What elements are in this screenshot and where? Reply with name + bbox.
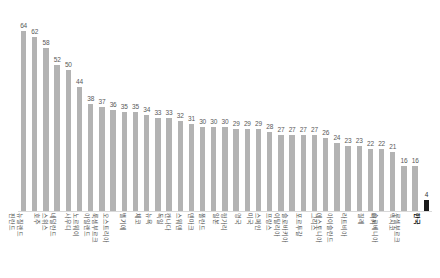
category-label-text: 루셀부르크: [394, 213, 400, 243]
bar-slot[interactable]: 62: [29, 4, 40, 211]
category-label-text: 헝가리: [221, 213, 227, 231]
bar-slot[interactable]: 24: [331, 4, 342, 211]
bar-slot[interactable]: 30: [208, 4, 219, 211]
bar-rect[interactable]: [424, 200, 429, 211]
bar-slot[interactable]: 22: [376, 4, 387, 211]
bars-container: 6462585250443837363535343333323130303029…: [18, 4, 432, 211]
bar-value-label: 28: [266, 123, 273, 131]
bar-slot[interactable]: 35: [119, 4, 130, 211]
bar-slot[interactable]: 28: [264, 4, 275, 211]
bar-rect[interactable]: [144, 115, 149, 211]
bar-slot[interactable]: 33: [152, 4, 163, 211]
bar-rect[interactable]: [278, 135, 283, 211]
bar-rect[interactable]: [301, 135, 306, 211]
bar-slot[interactable]: 44: [74, 4, 85, 211]
bar-slot[interactable]: 21: [387, 4, 398, 211]
bar-slot[interactable]: 52: [52, 4, 63, 211]
bar-value-label: 38: [87, 95, 94, 103]
bar-rect[interactable]: [66, 70, 71, 211]
bar-slot[interactable]: 23: [342, 4, 353, 211]
bar-value-label: 16: [401, 157, 408, 165]
category-label-text: 핀란드: [9, 213, 15, 231]
bar-rect[interactable]: [267, 132, 272, 211]
bar-value-label: 34: [143, 106, 150, 114]
bar-rect[interactable]: [110, 110, 115, 211]
bar-rect[interactable]: [133, 112, 138, 211]
bar-slot[interactable]: 27: [287, 4, 298, 211]
bar-slot[interactable]: 64: [18, 4, 29, 211]
bar-slot[interactable]: 36: [108, 4, 119, 211]
bar-rect[interactable]: [412, 166, 417, 211]
bar-rect[interactable]: [32, 37, 37, 211]
bar-slot[interactable]: 16: [410, 4, 421, 211]
bar-rect[interactable]: [211, 127, 216, 211]
bar-value-label: 23: [345, 137, 352, 145]
bar-value-label: 29: [233, 120, 240, 128]
category-label-text: 스위스: [42, 213, 48, 231]
bar-rect[interactable]: [54, 65, 59, 211]
bar-slot[interactable]: 50: [63, 4, 74, 211]
bar-slot[interactable]: 26: [320, 4, 331, 211]
bar-rect[interactable]: [189, 124, 194, 211]
bar-rect[interactable]: [312, 135, 317, 211]
bar-rect[interactable]: [245, 129, 250, 211]
category-label-text: 벨기에: [121, 213, 127, 231]
bar-slot[interactable]: 16: [398, 4, 409, 211]
bar-rect[interactable]: [357, 146, 362, 211]
bar-slot[interactable]: 27: [275, 4, 286, 211]
bar-rect[interactable]: [345, 146, 350, 211]
bar-value-label: 26: [322, 129, 329, 137]
bar-value-label: 35: [132, 103, 139, 111]
bar-slot[interactable]: 30: [219, 4, 230, 211]
bar-slot[interactable]: 27: [298, 4, 309, 211]
bar-rect[interactable]: [43, 48, 48, 211]
bar-slot[interactable]: 32: [175, 4, 186, 211]
bar-rect[interactable]: [379, 149, 384, 211]
category-label-text: 스웨덴: [177, 213, 183, 231]
bar-value-label: 4: [425, 191, 428, 199]
category-label-text: 포르투갈: [297, 213, 303, 237]
bar-slot[interactable]: 4: [421, 4, 432, 211]
bar-rect[interactable]: [289, 135, 294, 211]
bar-rect[interactable]: [390, 152, 395, 211]
bar-slot[interactable]: 29: [231, 4, 242, 211]
bar-value-label: 23: [356, 137, 363, 145]
category-label-text: 한국: [414, 213, 420, 225]
bar-slot[interactable]: 35: [130, 4, 141, 211]
bar-rect[interactable]: [222, 127, 227, 211]
bar-rect[interactable]: [155, 118, 160, 211]
bar-slot[interactable]: 29: [253, 4, 264, 211]
category-label-text: 영국: [235, 213, 241, 225]
bar-rect[interactable]: [233, 129, 238, 211]
bar-rect[interactable]: [200, 127, 205, 211]
bar-slot[interactable]: 58: [40, 4, 51, 211]
bar-rect[interactable]: [99, 107, 104, 211]
bar-value-label: 52: [54, 56, 61, 64]
bar-slot[interactable]: 38: [85, 4, 96, 211]
bar-rect[interactable]: [178, 121, 183, 211]
bar-slot[interactable]: 31: [186, 4, 197, 211]
category-label-text: 칠레: [359, 213, 365, 225]
bar-rect[interactable]: [77, 87, 82, 211]
category-label-text: 덴마크: [188, 213, 194, 231]
bar-rect[interactable]: [122, 112, 127, 211]
bar-rect[interactable]: [166, 118, 171, 211]
bar-slot[interactable]: 30: [197, 4, 208, 211]
bar-rect[interactable]: [401, 166, 406, 211]
bar-slot[interactable]: 23: [354, 4, 365, 211]
bar-value-label: 27: [277, 126, 284, 134]
bar-rect[interactable]: [256, 129, 261, 211]
category-label-text: 라트비아: [341, 213, 347, 237]
bar-rect[interactable]: [323, 138, 328, 211]
bar-rect[interactable]: [21, 31, 26, 211]
bar-slot[interactable]: 34: [141, 4, 152, 211]
bar-slot[interactable]: 29: [242, 4, 253, 211]
bar-rect[interactable]: [88, 104, 93, 211]
bar-value-label: 27: [300, 126, 307, 134]
bar-slot[interactable]: 27: [309, 4, 320, 211]
bar-slot[interactable]: 37: [96, 4, 107, 211]
bar-rect[interactable]: [368, 149, 373, 211]
bar-rect[interactable]: [334, 143, 339, 211]
bar-slot[interactable]: 33: [163, 4, 174, 211]
bar-slot[interactable]: 22: [365, 4, 376, 211]
